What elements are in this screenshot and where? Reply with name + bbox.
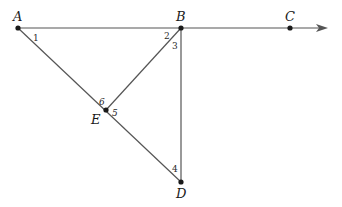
angle-6-label: 6	[99, 97, 105, 107]
point-d	[178, 179, 183, 184]
label-a: A	[12, 9, 22, 24]
geometry-diagram: A B C E D 1 2 3 4 5 6	[0, 0, 342, 207]
label-c: C	[285, 9, 295, 24]
label-e: E	[90, 112, 101, 127]
angle-1-label: 1	[33, 33, 39, 43]
point-a	[15, 25, 20, 30]
angle-4-label: 4	[172, 164, 178, 174]
angle-3-label: 3	[172, 41, 178, 51]
point-b	[178, 25, 183, 30]
label-d: D	[175, 186, 187, 201]
angle-2-label: 2	[164, 31, 170, 41]
label-b: B	[175, 9, 186, 24]
segment-be	[106, 28, 181, 110]
point-e	[103, 107, 108, 112]
angle-5-label: 5	[112, 108, 118, 118]
point-c	[287, 25, 292, 30]
